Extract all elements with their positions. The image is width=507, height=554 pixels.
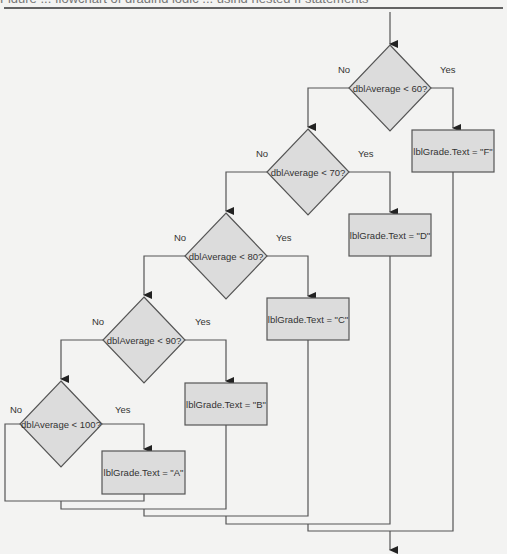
decision-d80: dblAverage < 80? — [185, 213, 267, 299]
process-label: lblGrade.Text = "B" — [186, 399, 266, 410]
connector-line — [431, 88, 453, 128]
branch-label-no: No — [174, 232, 186, 243]
branch-label-no: No — [10, 404, 22, 415]
process-pF: lblGrade.Text = "F" — [412, 130, 494, 172]
process-pB: lblGrade.Text = "B" — [185, 383, 267, 425]
connector-line — [102, 424, 144, 449]
process-label: lblGrade.Text = "F" — [413, 146, 492, 157]
branch-label-yes: Yes — [358, 148, 374, 159]
connector-line — [144, 256, 185, 295]
connectors — [5, 88, 453, 531]
connector-line — [267, 256, 308, 296]
connector-line — [226, 172, 267, 211]
connector-line — [308, 88, 349, 127]
branch-label-yes: Yes — [440, 64, 456, 75]
branch-label-yes: Yes — [195, 316, 211, 327]
connector-line — [185, 340, 226, 381]
process-label: lblGrade.Text = "A" — [104, 467, 184, 478]
decision-d100: dblAverage < 100? — [20, 381, 102, 467]
branch-label-no: No — [338, 64, 350, 75]
connector-line — [349, 172, 390, 212]
flowchart: dblAverage < 60?dblAverage < 70?dblAvera… — [0, 0, 507, 554]
branch-label-no: No — [92, 316, 104, 327]
process-pA: lblGrade.Text = "A" — [102, 451, 185, 494]
process-pC: lblGrade.Text = "C" — [267, 298, 349, 340]
process-label: lblGrade.Text = "D" — [350, 230, 430, 241]
branch-label-no: No — [256, 148, 268, 159]
branch-label-yes: Yes — [276, 232, 292, 243]
connector-line — [61, 340, 103, 379]
decision-d60: dblAverage < 60? — [349, 45, 431, 131]
branch-label-yes: Yes — [115, 404, 131, 415]
decision-label: dblAverage < 100? — [21, 419, 101, 430]
decision-label: dblAverage < 80? — [189, 251, 264, 262]
process-pD: lblGrade.Text = "D" — [349, 214, 431, 256]
decision-label: dblAverage < 60? — [353, 83, 428, 94]
decision-label: dblAverage < 70? — [271, 167, 346, 178]
decision-d90: dblAverage < 90? — [103, 297, 185, 383]
process-label: lblGrade.Text = "C" — [268, 314, 348, 325]
decision-label: dblAverage < 90? — [107, 335, 182, 346]
decision-d70: dblAverage < 70? — [267, 129, 349, 215]
